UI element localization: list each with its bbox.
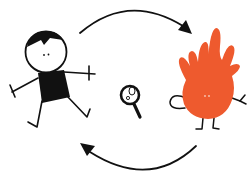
child-figure-icon: [10, 31, 95, 127]
splat-monster-icon: [170, 28, 246, 129]
arrow-top-icon: [80, 11, 192, 34]
illustration-svg: [0, 0, 247, 173]
arrow-bottom-icon: [80, 143, 196, 170]
cycle-illustration: Cycle diagram: child, magnifying glass, …: [0, 0, 247, 173]
magnifying-glass-icon: [121, 86, 140, 117]
